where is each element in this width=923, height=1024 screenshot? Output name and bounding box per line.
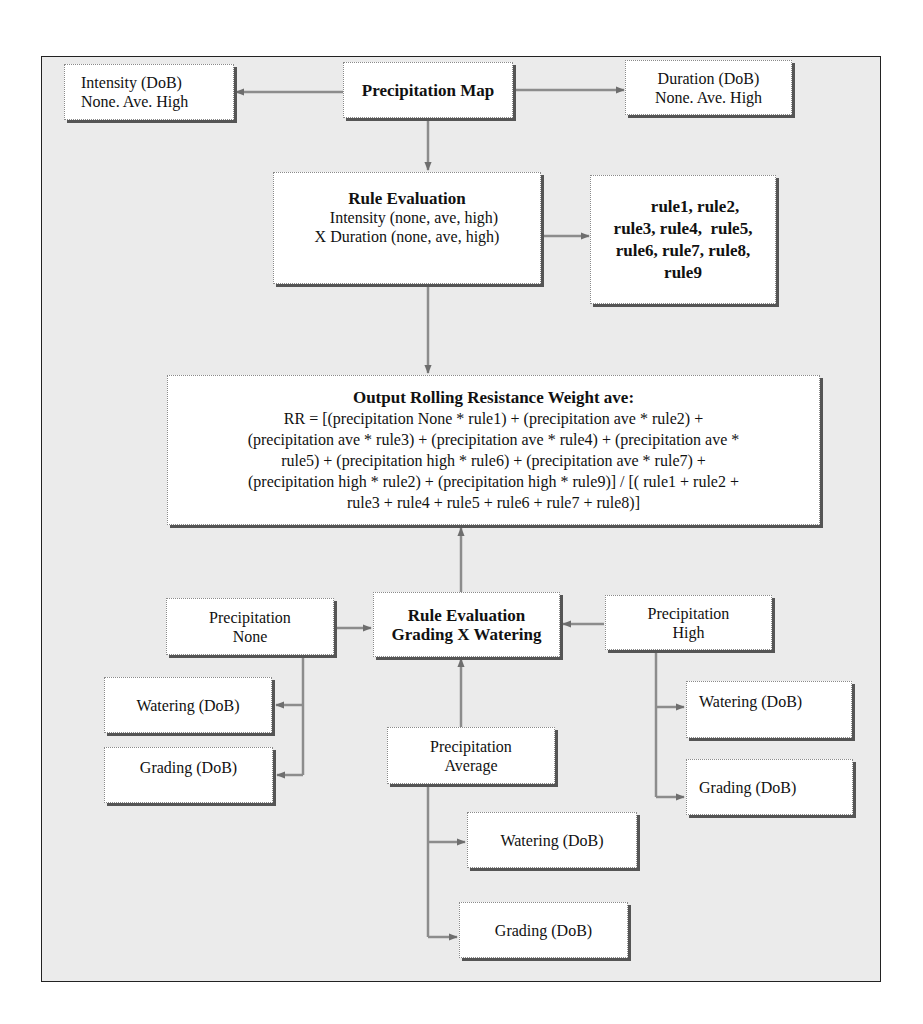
precipitation-high-node: Precipitation High	[605, 595, 772, 650]
grading-average-label: Grading (DoB)	[495, 921, 592, 940]
rules-line-3: rule6, rule7, rule8,	[616, 240, 751, 262]
grading-none-node: Grading (DoB)	[104, 747, 273, 803]
rule-evaluation-grading-node: Rule Evaluation Grading X Watering	[373, 592, 560, 657]
output-title: Output Rolling Resistance Weight ave:	[353, 387, 634, 408]
rule-evaluation-title: Rule Evaluation	[348, 189, 466, 208]
rule-evaluation-node: Rule Evaluation Intensity (none, ave, hi…	[273, 172, 541, 284]
intensity-label: Intensity (DoB)	[81, 73, 182, 92]
output-formula-line-4: (precipitation high * rule2) + (precipit…	[248, 471, 739, 492]
rule-evaluation-duration: X Duration (none, ave, high)	[315, 227, 500, 246]
grading-average-node: Grading (DoB)	[459, 902, 628, 958]
precipitation-average-level: Average	[445, 756, 498, 775]
rules-line-4: rule9	[664, 262, 702, 284]
output-node: Output Rolling Resistance Weight ave: RR…	[167, 375, 820, 525]
rule-evaluation-grading-title: Rule Evaluation	[408, 606, 526, 625]
intensity-levels: None. Ave. High	[81, 92, 188, 111]
rule-evaluation-intensity: Intensity (none, ave, high)	[316, 208, 498, 227]
precipitation-average-label: Precipitation	[430, 737, 512, 756]
precipitation-none-node: Precipitation None	[166, 598, 334, 655]
duration-label: Duration (DoB)	[658, 69, 760, 88]
precipitation-map-node: Precipitation Map	[343, 62, 513, 118]
precipitation-none-label: Precipitation	[209, 608, 291, 627]
output-formula-line-2: (precipitation ave * rule3) + (precipita…	[248, 429, 740, 450]
rule-evaluation-grading-subtitle: Grading X Watering	[392, 625, 542, 644]
duration-node: Duration (DoB) None. Ave. High	[625, 60, 792, 115]
precipitation-high-level: High	[673, 623, 705, 642]
watering-none-node: Watering (DoB)	[104, 677, 272, 733]
watering-average-node: Watering (DoB)	[467, 812, 637, 868]
grading-high-label: Grading (DoB)	[699, 778, 796, 797]
watering-high-node: Watering (DoB)	[686, 681, 852, 738]
precipitation-map-label: Precipitation Map	[362, 81, 494, 100]
rules-list-node: rule1, rule2, rule3, rule4, rule5, rule6…	[590, 175, 776, 304]
grading-high-node: Grading (DoB)	[686, 759, 853, 815]
rules-line-2: rule3, rule4, rule5,	[614, 218, 753, 240]
precipitation-none-level: None	[233, 627, 268, 646]
output-formula-line-5: rule3 + rule4 + rule5 + rule6 + rule7 + …	[347, 492, 640, 513]
rules-line-1: rule1, rule2,	[627, 196, 739, 218]
precipitation-high-label: Precipitation	[648, 604, 730, 623]
intensity-node: Intensity (DoB) None. Ave. High	[64, 64, 234, 120]
output-formula-line-3: rule5) + (precipitation high * rule6) + …	[281, 450, 706, 471]
grading-none-label: Grading (DoB)	[140, 758, 237, 777]
precipitation-average-node: Precipitation Average	[387, 727, 555, 784]
duration-levels: None. Ave. High	[655, 88, 762, 107]
watering-average-label: Watering (DoB)	[500, 831, 603, 850]
watering-none-label: Watering (DoB)	[136, 696, 239, 715]
watering-high-label: Watering (DoB)	[699, 692, 802, 711]
output-formula-line-1: RR = [(precipitation None * rule1) + (pr…	[284, 408, 703, 429]
